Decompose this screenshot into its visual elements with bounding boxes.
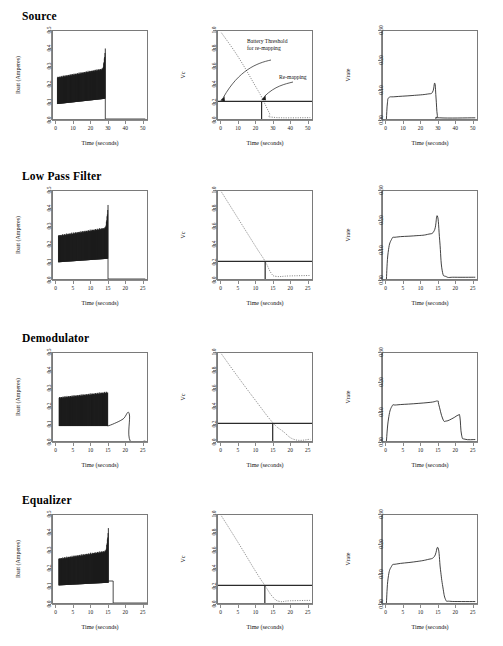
x-tick-label: 0 bbox=[384, 447, 387, 453]
x-tick bbox=[238, 443, 239, 446]
y-tick-label: 0.00 bbox=[378, 120, 384, 129]
plot-area-source-ibatt bbox=[53, 31, 147, 119]
y-axis-line bbox=[381, 352, 382, 442]
x-tick-label: 40 bbox=[123, 125, 128, 131]
plot-area-equalizer-vrate bbox=[383, 515, 477, 603]
x-tick-label: 0 bbox=[384, 125, 387, 131]
x-tick bbox=[125, 443, 126, 446]
x-tick bbox=[90, 121, 91, 124]
x-tick bbox=[403, 281, 404, 284]
x-tick-label: 0 bbox=[219, 285, 222, 291]
x-axis-label: Time (seconds) bbox=[217, 140, 313, 146]
y-tick-label: 0.4 bbox=[46, 532, 52, 539]
y-tick-label: 0.0 bbox=[46, 604, 52, 611]
x-tick bbox=[125, 281, 126, 284]
x-axis-label: Time (seconds) bbox=[217, 462, 313, 468]
x-axis-label: Time (seconds) bbox=[52, 624, 148, 630]
y-tick-label: 0.20 bbox=[378, 544, 384, 553]
x-tick-label: 30 bbox=[270, 125, 275, 131]
y-tick-label: 0.5 bbox=[46, 30, 52, 37]
x-tick bbox=[255, 443, 256, 446]
x-tick-label: 25 bbox=[305, 609, 310, 615]
plot-area-source-vrate bbox=[383, 31, 477, 119]
x-tick bbox=[455, 605, 456, 608]
y-tick-label: 0.3 bbox=[46, 388, 52, 395]
x-tick-label: 30 bbox=[105, 125, 110, 131]
x-axis-label: Time (seconds) bbox=[382, 624, 478, 630]
panel-lowpass-vrate: 05101520250.000.100.200.30Time (seconds)… bbox=[338, 184, 503, 324]
x-tick bbox=[438, 121, 439, 124]
y-tick-label: 0.2 bbox=[211, 262, 217, 269]
multi-panel-figure: Source010203040500.00.10.20.30.40.5Time … bbox=[0, 0, 503, 646]
plot-frame-equalizer-vc bbox=[217, 514, 313, 604]
x-tick bbox=[73, 121, 74, 124]
x-tick-label: 15 bbox=[105, 447, 110, 453]
x-tick-label: 10 bbox=[418, 285, 423, 291]
y-tick-label: 0.5 bbox=[46, 352, 52, 359]
x-tick-label: 10 bbox=[88, 285, 93, 291]
y-tick-label: 0.0 bbox=[211, 604, 217, 611]
x-tick-label: 5 bbox=[402, 609, 405, 615]
y-axis-label: Vrate bbox=[345, 391, 351, 404]
y-tick-label: 0.4 bbox=[211, 84, 217, 91]
x-axis-label: Time (seconds) bbox=[52, 300, 148, 306]
x-tick-label: 15 bbox=[270, 609, 275, 615]
x-tick-label: 50 bbox=[140, 125, 145, 131]
panel-lowpass-vc: 05101520250.00.20.40.60.81.0Time (second… bbox=[173, 184, 338, 324]
y-tick-label: 0.0 bbox=[46, 280, 52, 287]
x-tick bbox=[108, 605, 109, 608]
x-tick-label: 40 bbox=[453, 125, 458, 131]
plot-area-lowpass-vc bbox=[218, 191, 312, 279]
x-tick-label: 0 bbox=[54, 447, 57, 453]
x-tick-label: 25 bbox=[140, 285, 145, 291]
x-tick-label: 20 bbox=[288, 285, 293, 291]
x-tick-label: 0 bbox=[384, 285, 387, 291]
x-tick bbox=[420, 281, 421, 284]
x-axis-line bbox=[52, 442, 148, 443]
plot-frame-lowpass-ibatt bbox=[52, 190, 148, 280]
y-axis-label: Ibatt (Amperes) bbox=[15, 540, 21, 578]
x-tick bbox=[55, 605, 56, 608]
y-tick-label: 0.0 bbox=[211, 442, 217, 449]
y-tick-label: 0.8 bbox=[211, 208, 217, 215]
panel-equalizer-ibatt: 05101520250.00.10.20.30.40.5Time (second… bbox=[8, 508, 173, 646]
x-tick-label: 20 bbox=[453, 609, 458, 615]
x-tick-label: 10 bbox=[418, 609, 423, 615]
x-axis-line bbox=[52, 120, 148, 121]
x-tick-label: 25 bbox=[305, 285, 310, 291]
x-tick bbox=[143, 605, 144, 608]
x-tick-label: 10 bbox=[253, 609, 258, 615]
plot-frame-equalizer-vrate bbox=[382, 514, 478, 604]
x-tick bbox=[125, 121, 126, 124]
y-tick-label: 0.2 bbox=[211, 586, 217, 593]
y-tick-label: 0.20 bbox=[378, 60, 384, 69]
x-tick-label: 0 bbox=[384, 609, 387, 615]
x-tick-label: 40 bbox=[288, 125, 293, 131]
plot-frame-source-ibatt bbox=[52, 30, 148, 120]
x-tick-label: 20 bbox=[88, 125, 93, 131]
x-axis-line bbox=[217, 280, 313, 281]
x-tick bbox=[90, 605, 91, 608]
x-tick-label: 5 bbox=[72, 285, 75, 291]
x-tick bbox=[438, 443, 439, 446]
x-tick-label: 10 bbox=[70, 125, 75, 131]
y-tick-label: 0.2 bbox=[46, 244, 52, 251]
plot-frame-demod-vrate bbox=[382, 352, 478, 442]
x-tick bbox=[143, 121, 144, 124]
x-tick bbox=[273, 443, 274, 446]
x-tick-label: 10 bbox=[253, 285, 258, 291]
x-tick bbox=[273, 605, 274, 608]
x-tick bbox=[420, 121, 421, 124]
y-tick-label: 0.20 bbox=[378, 220, 384, 229]
y-tick-label: 1.0 bbox=[211, 352, 217, 359]
x-tick bbox=[220, 443, 221, 446]
x-tick bbox=[308, 605, 309, 608]
row-title: Demodulator bbox=[22, 332, 89, 344]
x-tick-label: 5 bbox=[237, 609, 240, 615]
y-axis-label: Ibatt (Amperes) bbox=[15, 216, 21, 254]
x-tick-label: 15 bbox=[105, 285, 110, 291]
panel-row-low-pass-filter: Low Pass Filter05101520250.00.10.20.30.4… bbox=[0, 168, 503, 328]
x-tick bbox=[385, 443, 386, 446]
x-tick bbox=[90, 443, 91, 446]
x-tick bbox=[308, 121, 309, 124]
